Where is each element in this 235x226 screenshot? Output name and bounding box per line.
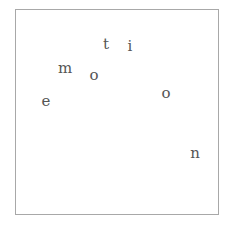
letter-e: e <box>42 94 51 109</box>
letter-n: n <box>190 146 200 161</box>
letter-m: m <box>58 61 72 76</box>
scattered-letters-frame <box>15 9 219 215</box>
letter-o-second: o <box>161 86 170 101</box>
letter-o-first: o <box>89 68 98 83</box>
letter-i: i <box>128 39 133 54</box>
letter-t: t <box>103 37 109 52</box>
